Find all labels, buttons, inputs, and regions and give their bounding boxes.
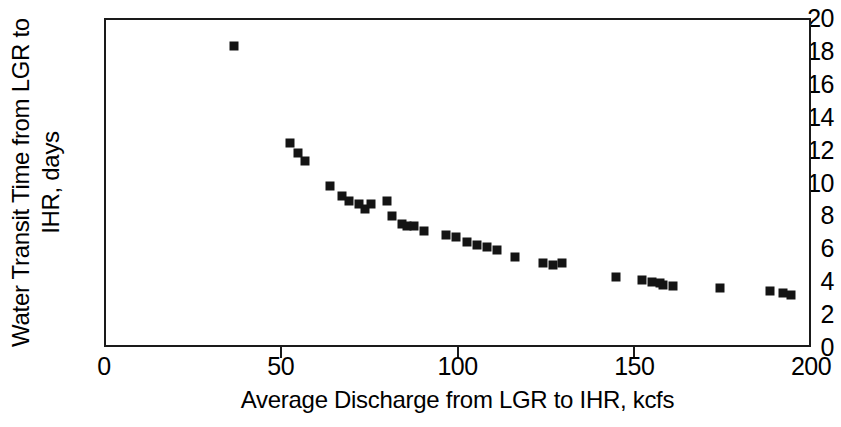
data-point [492, 246, 501, 255]
x-axis-tick-label: 100 [437, 354, 477, 379]
data-point [765, 287, 774, 296]
data-point [716, 284, 725, 293]
x-axis-tick-label: 200 [791, 354, 831, 379]
data-point [409, 221, 418, 230]
x-axis-tick-label: 0 [97, 354, 110, 379]
data-point [229, 42, 238, 51]
data-point [301, 157, 310, 166]
data-point [285, 139, 294, 148]
data-point [442, 231, 451, 240]
data-point [482, 243, 491, 252]
x-axis-label: Average Discharge from LGR to IHR, kcfs [104, 386, 811, 414]
data-point [382, 196, 391, 205]
data-point [420, 226, 429, 235]
data-point [787, 290, 796, 299]
y-axis-label: Water Transit Time from LGR to IHR, days [0, 18, 72, 347]
data-point [367, 200, 376, 209]
data-point [472, 241, 481, 250]
data-point [345, 196, 354, 205]
data-point [538, 259, 547, 268]
data-point [669, 282, 678, 291]
x-axis-tick-label: 50 [267, 354, 294, 379]
data-point [510, 252, 519, 261]
x-axis-tick-label: 150 [614, 354, 654, 379]
data-point [462, 238, 471, 247]
data-point [548, 261, 557, 270]
y-axis-label-line-2: IHR, days [36, 131, 66, 234]
plot-area [104, 18, 811, 347]
data-point [612, 272, 621, 281]
data-point [637, 275, 646, 284]
data-point [659, 280, 668, 289]
data-points-layer [106, 20, 809, 345]
scatter-plot-figure: 02468101214161820 050100150200 Water Tra… [0, 0, 841, 427]
data-point [451, 233, 460, 242]
data-point [387, 211, 396, 220]
data-point [326, 182, 335, 191]
y-axis-label-line-1: Water Transit Time from LGR to [6, 18, 36, 347]
data-point [558, 259, 567, 268]
